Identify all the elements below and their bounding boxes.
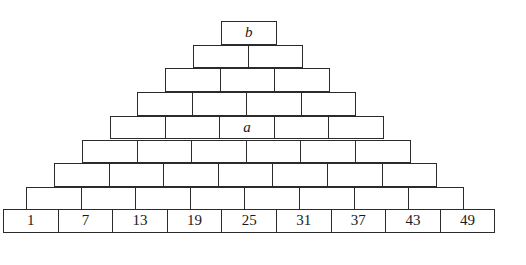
brick-r3-c3 xyxy=(274,68,330,92)
brick-row-5: a xyxy=(110,116,384,140)
brick-r5-c2 xyxy=(165,116,221,140)
brick-r8-c6 xyxy=(299,187,355,211)
brick-r4-c3 xyxy=(246,92,302,116)
brick-r3-c1 xyxy=(165,68,221,92)
brick-r4-c2 xyxy=(192,92,248,116)
brick-r7-c7 xyxy=(382,163,438,187)
brick-r6-c2 xyxy=(137,140,193,164)
brick-label: a xyxy=(243,120,251,135)
brick-r7-c3 xyxy=(163,163,219,187)
brick-r8-c8 xyxy=(408,187,464,211)
brick-label: 13 xyxy=(132,213,147,228)
brick-labeled-b: b xyxy=(221,21,277,45)
brick-r7-c1 xyxy=(54,163,110,187)
brick-label: 7 xyxy=(82,213,90,228)
brick-labeled-25: 25 xyxy=(221,209,277,233)
brick-row-3 xyxy=(165,68,330,92)
brick-r2-c2 xyxy=(248,45,304,69)
brick-pyramid-figure: ba1713192531374349 xyxy=(0,0,526,265)
brick-label: 1 xyxy=(27,213,35,228)
brick-label: 37 xyxy=(351,213,366,228)
brick-labeled-13: 13 xyxy=(112,209,168,233)
brick-r4-c4 xyxy=(301,92,357,116)
brick-r5-c4 xyxy=(274,116,330,140)
brick-r3-c2 xyxy=(220,68,276,92)
brick-r7-c4 xyxy=(218,163,274,187)
brick-labeled-49: 49 xyxy=(440,209,496,233)
brick-r4-c1 xyxy=(137,92,193,116)
brick-labeled-37: 37 xyxy=(331,209,387,233)
brick-row-2 xyxy=(193,45,303,69)
brick-row-7 xyxy=(54,163,437,187)
brick-r8-c5 xyxy=(244,187,300,211)
brick-row-6 xyxy=(82,140,411,164)
brick-r6-c3 xyxy=(191,140,247,164)
brick-row-1: b xyxy=(221,21,277,45)
brick-r6-c6 xyxy=(355,140,411,164)
brick-r7-c6 xyxy=(327,163,383,187)
brick-labeled-19: 19 xyxy=(167,209,223,233)
brick-r8-c1 xyxy=(26,187,82,211)
brick-r5-c5 xyxy=(328,116,384,140)
brick-label: 25 xyxy=(242,213,257,228)
brick-labeled-43: 43 xyxy=(385,209,441,233)
brick-labeled-7: 7 xyxy=(58,209,114,233)
brick-label: 43 xyxy=(405,213,420,228)
brick-labeled-1: 1 xyxy=(3,209,59,233)
brick-r6-c1 xyxy=(82,140,138,164)
brick-labeled-31: 31 xyxy=(276,209,332,233)
brick-row-4 xyxy=(137,92,356,116)
brick-r8-c4 xyxy=(190,187,246,211)
brick-r8-c3 xyxy=(135,187,191,211)
brick-r6-c4 xyxy=(246,140,302,164)
brick-row-8 xyxy=(26,187,464,211)
brick-r2-c1 xyxy=(193,45,249,69)
brick-label: 19 xyxy=(187,213,202,228)
brick-row-9: 1713192531374349 xyxy=(3,209,495,233)
brick-r8-c7 xyxy=(354,187,410,211)
brick-label: 49 xyxy=(460,213,475,228)
brick-r8-c2 xyxy=(81,187,137,211)
brick-r7-c5 xyxy=(272,163,328,187)
brick-label: 31 xyxy=(296,213,311,228)
brick-r7-c2 xyxy=(109,163,165,187)
brick-r5-c1 xyxy=(110,116,166,140)
brick-r6-c5 xyxy=(300,140,356,164)
brick-labeled-a: a xyxy=(219,116,275,140)
brick-label: b xyxy=(245,25,253,40)
